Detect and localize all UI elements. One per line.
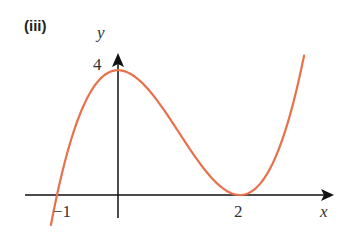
x-tick-2: 2: [234, 202, 243, 221]
x-axis-label: x: [319, 202, 328, 221]
y-tick-4: 4: [93, 55, 102, 74]
x-tick-minus1: −1: [53, 202, 71, 221]
y-axis-label: y: [95, 23, 105, 42]
function-curve: [51, 56, 304, 225]
cubic-graph: y 4 −1 2 x: [0, 0, 353, 235]
